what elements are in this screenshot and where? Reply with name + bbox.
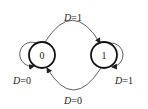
state-1: 1 (91, 42, 117, 68)
label-self-0: D=0 (12, 75, 31, 86)
state-0: 0 (29, 42, 55, 68)
label-0-to-1: D=1 (63, 12, 82, 23)
state-diagram: 0 1 D=1 D=0 D=0 D=1 (0, 0, 148, 109)
state-1-label: 1 (102, 50, 107, 61)
transition-1-to-0 (47, 68, 101, 90)
label-self-1: D=1 (114, 75, 133, 86)
state-0-label: 0 (40, 50, 45, 61)
transition-0-to-1 (45, 20, 100, 43)
label-1-to-0: D=0 (63, 95, 82, 106)
